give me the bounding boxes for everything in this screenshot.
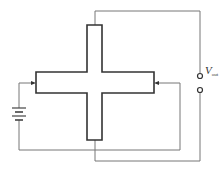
output-voltage-label: Vout [205, 65, 218, 77]
wire-top [95, 11, 200, 73]
wire-left [19, 83, 33, 108]
hall-cross-circuit [0, 0, 224, 175]
cross-sample [36, 25, 154, 140]
output-voltage-subscript: out [212, 72, 218, 77]
wire-bottom [95, 93, 200, 161]
output-terminal-top [198, 74, 203, 79]
battery-icon [12, 108, 26, 120]
output-terminal-bottom [198, 88, 203, 93]
output-voltage-symbol: V [205, 64, 212, 76]
